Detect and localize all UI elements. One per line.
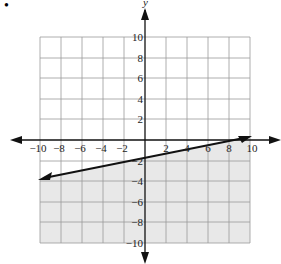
coordinate-plane: y −10 −8 −6 −4 −2 2 4 6 8 10 10 8 6 4 2 … [0, 0, 281, 264]
svg-text:−4: −4 [95, 142, 107, 154]
svg-text:6: 6 [138, 72, 144, 84]
svg-text:−2: −2 [131, 155, 143, 167]
x-axis-left-arrow-icon [10, 136, 22, 144]
svg-text:2: 2 [163, 142, 169, 154]
svg-text:−8: −8 [53, 142, 65, 154]
svg-text:4: 4 [138, 93, 144, 105]
svg-text:8: 8 [226, 142, 232, 154]
svg-text:4: 4 [184, 142, 190, 154]
svg-text:−6: −6 [74, 142, 86, 154]
x-axis-right-arrow-icon [269, 136, 281, 144]
y-axis-down-arrow-icon [141, 252, 149, 264]
svg-text:−2: −2 [116, 142, 128, 154]
svg-text:−6: −6 [131, 196, 143, 208]
svg-text:−10: −10 [126, 237, 144, 249]
svg-text:−8: −8 [131, 216, 143, 228]
y-axis-up-arrow-icon [141, 8, 149, 20]
svg-text:10: 10 [132, 31, 144, 43]
svg-text:2: 2 [138, 113, 144, 125]
svg-text:−10: −10 [29, 142, 47, 154]
svg-text:−4: −4 [131, 175, 143, 187]
svg-text:10: 10 [247, 142, 259, 154]
y-axis-label: y [142, 0, 148, 8]
svg-text:6: 6 [205, 142, 211, 154]
svg-text:8: 8 [138, 52, 144, 64]
